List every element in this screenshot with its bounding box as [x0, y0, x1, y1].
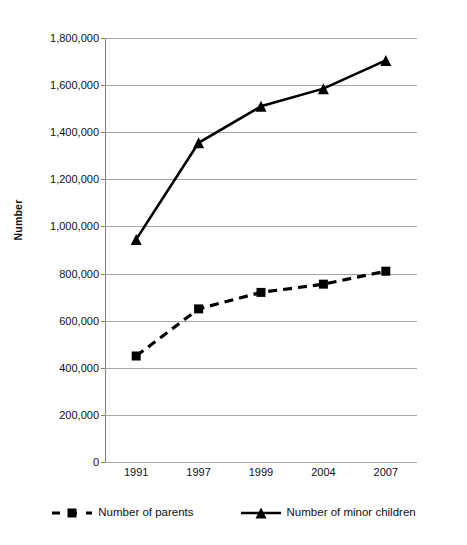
- y-axis-tick-label: 1,400,000: [3, 126, 99, 138]
- y-axis-tick-label: 0: [3, 456, 99, 468]
- y-axis-line: [105, 38, 106, 462]
- gridline: [105, 226, 417, 227]
- gridline: [105, 415, 417, 416]
- legend-item-minor-children[interactable]: Number of minor children: [240, 506, 416, 520]
- y-axis-tick: [101, 226, 105, 227]
- x-axis-tick-label: 1991: [101, 466, 171, 478]
- y-axis-tick: [101, 38, 105, 39]
- chart-legend: Number of parentsNumber of minor childre…: [0, 498, 467, 528]
- y-axis-tick: [101, 321, 105, 322]
- gridline: [105, 132, 417, 133]
- line-chart: Number 0200,000400,000600,000800,0001,00…: [0, 0, 467, 545]
- y-axis-tick-label: 200,000: [3, 409, 99, 421]
- y-axis-tick: [101, 415, 105, 416]
- y-axis-tick: [101, 274, 105, 275]
- y-axis-tick: [101, 85, 105, 86]
- plot-area: [105, 38, 417, 462]
- y-axis-tick-labels: 0200,000400,000600,000800,0001,000,0001,…: [0, 38, 99, 462]
- y-axis-tick: [101, 462, 105, 463]
- y-axis-tick-label: 1,600,000: [3, 79, 99, 91]
- y-axis-tick-label: 400,000: [3, 362, 99, 374]
- legend-label: Number of minor children: [287, 507, 416, 519]
- gridline: [105, 321, 417, 322]
- y-axis-tick-label: 1,800,000: [3, 32, 99, 44]
- y-axis-tick-label: 1,000,000: [3, 220, 99, 232]
- gridline: [105, 274, 417, 275]
- gridline: [105, 179, 417, 180]
- x-axis-tick-label: 1997: [164, 466, 234, 478]
- y-axis-tick: [101, 179, 105, 180]
- legend-item-parents[interactable]: Number of parents: [51, 506, 193, 520]
- x-axis-tick-labels: 19911997199920042007: [105, 466, 417, 486]
- legend-label: Number of parents: [98, 507, 193, 519]
- gridline: [105, 85, 417, 86]
- gridline: [105, 38, 417, 39]
- y-axis-tick-label: 1,200,000: [3, 173, 99, 185]
- y-axis-tick-label: 800,000: [3, 268, 99, 280]
- gridline: [105, 368, 417, 369]
- x-axis-tick-label: 2007: [351, 466, 421, 478]
- y-axis-tick: [101, 368, 105, 369]
- y-axis-tick: [101, 132, 105, 133]
- x-axis-tick-label: 1999: [226, 466, 296, 478]
- x-axis-tick-label: 2004: [288, 466, 358, 478]
- gridline: [105, 462, 417, 463]
- y-axis-tick-label: 600,000: [3, 315, 99, 327]
- triangle-marker: [240, 506, 282, 520]
- square-marker: [51, 506, 93, 520]
